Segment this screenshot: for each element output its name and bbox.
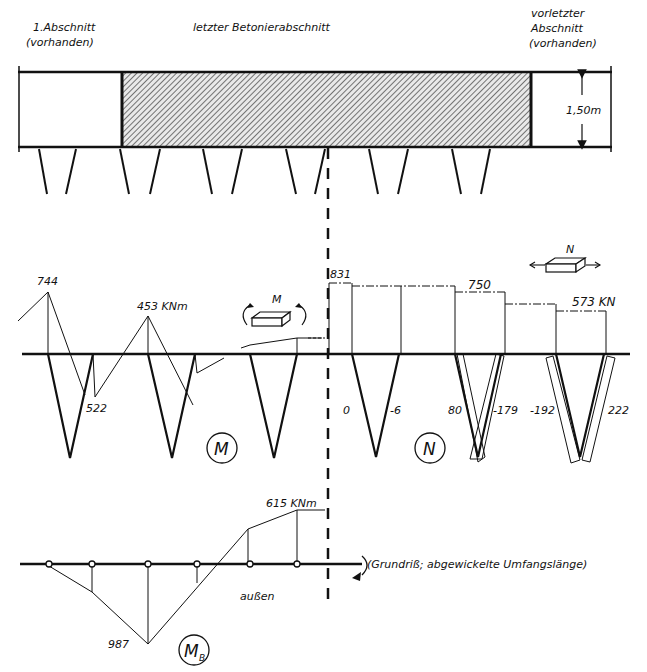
bending-symbol: M <box>184 641 199 661</box>
bending-curve <box>49 510 325 644</box>
bending-outside-label: außen <box>240 590 274 603</box>
normal-force-value-3: 573 KN <box>572 295 616 309</box>
moment-diagram: 744 453 KNm 522 M M <box>18 275 630 463</box>
bending-max-value: 615 KNm <box>266 497 317 510</box>
right-section-label-3: (vorhanden) <box>529 37 597 50</box>
bending-diagram: 615 KNm 987 außen (Grundriß; abgewickelt… <box>20 497 587 665</box>
pile-force-4: -192 <box>530 404 555 417</box>
bending-min-value: 987 <box>108 638 129 651</box>
moment-icon-label: M <box>272 293 282 306</box>
plan-piles <box>39 149 490 194</box>
normal-force-icon-label: N <box>566 243 574 256</box>
diagram-canvas: 1.Abschnitt (vorhanden) letzter Betonier… <box>0 0 647 672</box>
left-section-label-1: 1.Abschnitt <box>33 21 96 34</box>
dimension-label: 1,50m <box>566 104 601 117</box>
pile-line <box>120 149 129 194</box>
pile-line <box>315 149 325 194</box>
pile-force-2: 80 <box>448 404 462 417</box>
pile-line <box>232 149 242 194</box>
left-section-label-2: (vorhanden) <box>26 36 94 49</box>
pile-line <box>203 149 212 194</box>
pile-force-3: -179 <box>493 404 518 417</box>
new-concrete-section <box>122 72 531 147</box>
wall-plan: 1,50m <box>18 66 612 152</box>
bending-symbol-subscript: B <box>199 653 205 663</box>
pile-force-1: -6 <box>390 404 401 417</box>
moment-block-icon <box>243 303 306 326</box>
pile-line <box>398 149 408 194</box>
moment-symbol: M <box>214 439 229 459</box>
pile-line <box>150 149 160 194</box>
pile-line <box>369 149 378 194</box>
right-section-label-1: vorletzter <box>531 7 586 20</box>
normal-force-value-2: 750 <box>468 278 491 292</box>
pile-line <box>481 149 490 194</box>
middle-section-label: letzter Betonierabschnitt <box>193 21 330 34</box>
pile-line <box>39 149 47 194</box>
pile-line <box>286 149 296 194</box>
pile-force-0: 0 <box>343 404 350 417</box>
moment-unit-value: 453 KNm <box>137 300 188 313</box>
bending-note: (Grundriß; abgewickelte Umfangslänge) <box>367 558 587 571</box>
pile-force-5: 222 <box>608 404 629 417</box>
structural-force-diagram: 1.Abschnitt (vorhanden) letzter Betonier… <box>0 0 647 672</box>
normal-force-block-icon <box>530 258 600 272</box>
header-labels: 1.Abschnitt (vorhanden) letzter Betonier… <box>26 7 597 50</box>
normal-force-verticals <box>329 283 606 354</box>
right-section-label-2: Abschnitt <box>530 22 584 35</box>
moment-dip-value: 522 <box>86 402 107 415</box>
normal-force-value-1: 831 <box>330 268 351 281</box>
pile-line <box>66 149 76 194</box>
moment-peak-value: 744 <box>37 275 58 288</box>
normal-force-symbol: N <box>423 439 436 459</box>
pile-line <box>452 149 461 194</box>
